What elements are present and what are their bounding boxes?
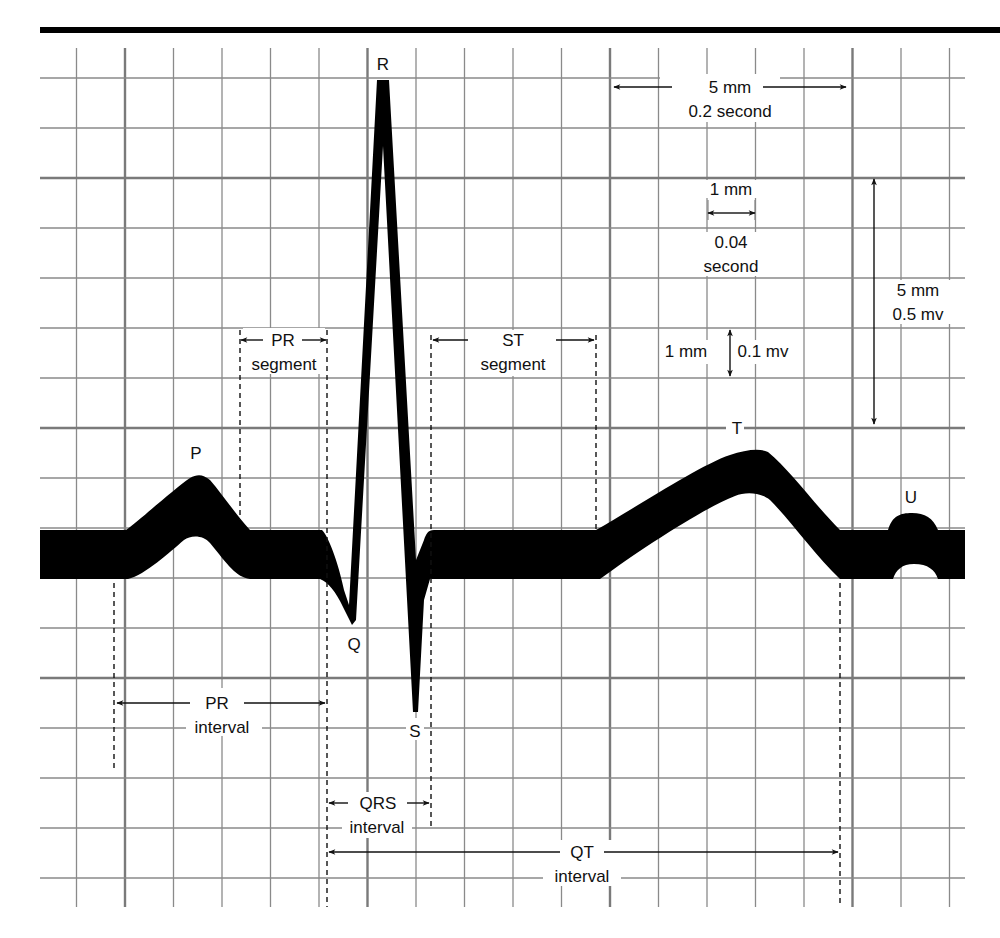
st-segment-label-1: ST: [502, 331, 524, 350]
pr-interval-label-1: PR: [205, 694, 229, 713]
wave-label-p: P: [190, 444, 201, 463]
st-segment-label-2: segment: [480, 355, 545, 374]
scale-05mv-label: 0.5 mv: [892, 305, 944, 324]
wave-label-r: R: [377, 55, 389, 74]
pr-interval-label-2: interval: [195, 718, 250, 737]
qrs-interval-label-2: interval: [350, 818, 405, 837]
scale-5mm-v-label: 5 mm: [897, 281, 940, 300]
ecg-trace: [40, 80, 965, 712]
wave-label-u: U: [905, 488, 917, 507]
wave-labels: R P Q S T U: [190, 51, 917, 741]
scale-1mm-label: 1 mm: [710, 180, 753, 199]
pr-segment-label-2: segment: [251, 355, 316, 374]
scale-1mm-v-label: 1 mm: [665, 342, 708, 361]
ecg-waveform: [40, 80, 965, 712]
dashed-guides: [114, 330, 840, 907]
qt-interval-annotation: QT interval: [329, 840, 838, 886]
ecg-diagram: R P Q S T U 5 mm 0.2 second 1 mm 0.04 se…: [0, 0, 1000, 938]
qt-interval-label-2: interval: [555, 867, 610, 886]
qrs-interval-label-1: QRS: [360, 794, 397, 813]
scale-01mv-label: 0.1 mv: [737, 342, 789, 361]
scale-02-second-label: 0.2 second: [688, 102, 771, 121]
st-segment-annotation: ST segment: [433, 330, 594, 376]
scale-1mm-vertical: 1 mm 0.1 mv: [664, 330, 789, 376]
pr-segment-label-1: PR: [271, 331, 295, 350]
scale-5mm-label: 5 mm: [709, 78, 752, 97]
wave-label-q: Q: [347, 635, 360, 654]
scale-second-label: second: [704, 257, 759, 276]
qrs-interval-annotation: QRS interval: [329, 792, 429, 838]
qt-interval-label-1: QT: [570, 843, 594, 862]
scale-5mm-horizontal: 5 mm 0.2 second: [614, 74, 846, 122]
wave-label-s: S: [409, 722, 420, 741]
scale-5mm-vertical: 5 mm 0.5 mv: [874, 179, 954, 424]
ecg-grid: [40, 48, 965, 907]
pr-interval-annotation: PR interval: [117, 688, 325, 737]
scale-004-label: 0.04: [714, 233, 747, 252]
top-rule: [40, 27, 1000, 33]
wave-label-t: T: [732, 419, 742, 438]
pr-segment-annotation: PR segment: [241, 328, 326, 374]
